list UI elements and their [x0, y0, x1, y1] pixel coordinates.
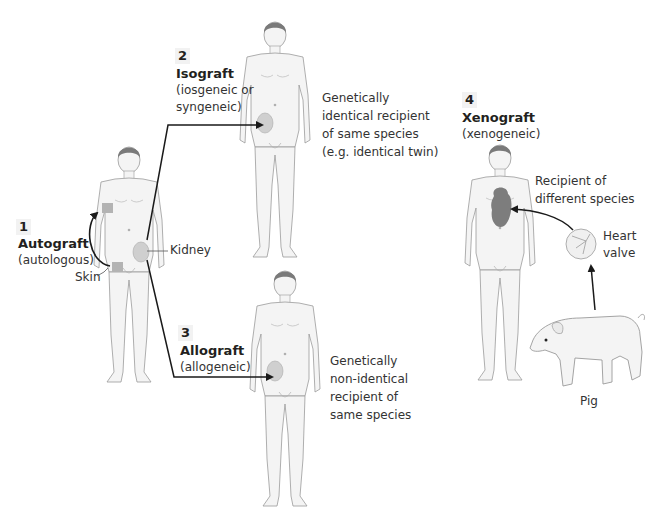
- isograft-number: 2: [175, 48, 190, 64]
- skin-graft-site-lower: [112, 262, 123, 272]
- xenograft-recipient-figure: [465, 145, 535, 380]
- kidney-icon: [133, 242, 149, 262]
- xenograft-qualifier: (xenogeneic): [462, 126, 540, 143]
- xenograft-number: 4: [462, 92, 477, 108]
- kidney-icon: [257, 113, 273, 133]
- allograft-recipient-figure: [250, 271, 320, 506]
- allograft-title: Allograft: [180, 342, 244, 359]
- allograft-qualifier: (allogeneic): [180, 359, 251, 376]
- xenograft-description-line2: different species: [535, 190, 635, 208]
- kidney-icon: [267, 361, 283, 381]
- autograft-number: 1: [16, 219, 31, 235]
- heart-valve-label-line1: Heart: [603, 227, 636, 245]
- isograft-description-line3: of same species: [322, 125, 419, 143]
- allograft-number: 3: [178, 325, 193, 341]
- isograft-description-line4: (e.g. identical twin): [322, 143, 438, 161]
- isograft-recipient-figure: [240, 22, 310, 257]
- xenograft-description-line1: Recipient of: [535, 172, 606, 190]
- isograft-qualifier-line1: (iosgeneic or: [176, 82, 254, 99]
- xenograft-title: Xenograft: [462, 109, 535, 126]
- heart-valve-label-line2: valve: [603, 244, 635, 262]
- allograft-description-line1: Genetically: [330, 352, 397, 370]
- pig-figure: [530, 314, 645, 386]
- diagram-graphics: [0, 0, 656, 515]
- allograft-description-line2: non-identical: [330, 370, 408, 388]
- skin-label: Skin: [75, 269, 101, 286]
- allograft-description-line3: recipient of: [330, 388, 398, 406]
- pig-to-valve-arrow: [591, 266, 595, 310]
- autograft-qualifier: (autologous): [18, 252, 94, 269]
- isograft-description-line1: Genetically: [322, 89, 389, 107]
- kidney-label: Kidney: [170, 242, 211, 259]
- isograft-title: Isograft: [176, 65, 234, 82]
- pig-label: Pig: [580, 392, 598, 410]
- autograft-title: Autograft: [18, 235, 89, 252]
- heart-valve-icon: [566, 229, 596, 259]
- isograft-qualifier-line2: syngeneic): [176, 99, 242, 116]
- skin-graft-site-upper: [102, 203, 113, 213]
- allograft-description-line4: same species: [330, 406, 411, 424]
- isograft-description-line2: identical recipient: [322, 107, 430, 125]
